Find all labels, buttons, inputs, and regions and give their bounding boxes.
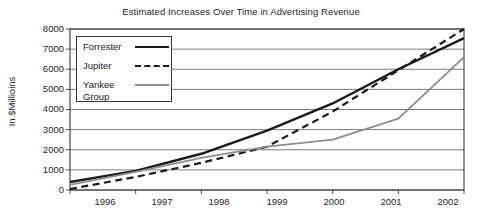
legend-swatch-solid-gray-icon — [135, 84, 169, 90]
plot-area — [0, 0, 482, 224]
legend-swatch-dashed-dark-icon — [135, 65, 169, 71]
legend-label: Yankee — [83, 79, 115, 91]
legend-item-forrester[interactable]: Forrester — [83, 41, 171, 56]
legend-swatch-solid-dark-icon — [135, 46, 169, 52]
legend-item-yankee-group[interactable]: Yankee Group — [83, 79, 171, 105]
legend-item-jupiter[interactable]: Jupiter — [83, 60, 171, 75]
legend-label: Forrester — [83, 41, 122, 53]
legend: Forrester Jupiter Yankee Group — [76, 36, 172, 102]
legend-label: Jupiter — [83, 60, 112, 72]
chart-container: Estimated Increases Over Time in Adverti… — [0, 0, 482, 224]
legend-label-line2: Group — [83, 91, 109, 103]
